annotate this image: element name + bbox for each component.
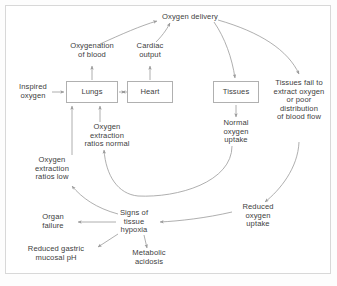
node-normal-oxygen-uptake: Normal oxygen uptake xyxy=(204,119,268,145)
edge-tissues-fail-to-reduced-uptake xyxy=(265,142,299,202)
node-lungs: Lungs xyxy=(66,81,118,103)
node-reduced-gastric-mucosal-ph: Reduced gastric mucosal pH xyxy=(12,245,100,262)
node-heart: Heart xyxy=(127,81,173,103)
node-cardiac-output: Cardiac output xyxy=(122,42,178,59)
edge-normal-uptake-to-extraction-normal xyxy=(104,146,232,196)
edge-hypoxia-to-gastric-ph xyxy=(98,234,118,247)
edge-delivery-to-tissues xyxy=(214,22,235,78)
node-oxygen-delivery: Oxygen delivery xyxy=(150,13,230,22)
edge-reduced-uptake-to-hypoxia xyxy=(160,212,232,222)
node-oxygen-extraction-ratios-normal: Oxygen extraction ratios normal xyxy=(74,123,140,149)
node-tissues-fail: Tissues fail to extract oxygen or poor d… xyxy=(264,79,334,122)
node-signs-of-tissue-hypoxia: Signs of tissue hypoxia xyxy=(106,209,162,235)
node-inspired-oxygen: Inspired oxygen xyxy=(8,83,58,100)
edge-cardiac-to-delivery xyxy=(156,23,170,42)
figure-container: Oxygen delivery Oxygenation of blood Car… xyxy=(0,0,337,286)
node-organ-failure: Organ failure xyxy=(28,213,78,230)
edge-delivery-to-tissues-fail xyxy=(218,20,299,74)
edge-hypoxia-to-metabolic-acidosis xyxy=(144,235,147,248)
node-metabolic-acidosis: Metabolic acidosis xyxy=(122,249,176,266)
node-tissues: Tissues xyxy=(213,81,259,103)
node-oxygen-extraction-ratios-low: Oxygen extraction ratios low xyxy=(20,156,84,182)
node-oxygenation-of-blood: Oxygenation of blood xyxy=(57,42,127,59)
node-reduced-oxygen-uptake: Reduced oxygen uptake xyxy=(228,203,288,229)
